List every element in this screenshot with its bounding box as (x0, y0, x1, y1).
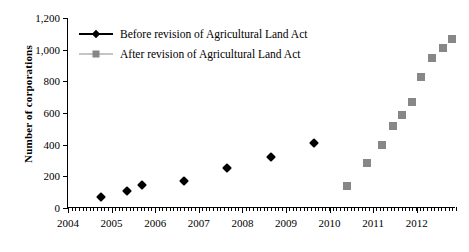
x-axis-minor-tick (93, 207, 94, 211)
x-axis-minor-tick (391, 207, 392, 211)
x-axis-minor-tick (412, 207, 413, 211)
x-axis-minor-tick (191, 207, 192, 211)
legend-marker (93, 50, 100, 57)
x-axis-minor-tick (104, 207, 105, 211)
data-point (378, 141, 386, 149)
x-axis-minor-tick (282, 207, 283, 211)
x-axis-minor-tick (358, 207, 359, 211)
x-axis-minor-tick (238, 207, 239, 211)
x-axis-minor-tick (318, 207, 319, 211)
data-point (343, 182, 351, 190)
data-point (363, 159, 371, 167)
x-axis-minor-tick (376, 207, 377, 211)
x-axis-minor-tick (130, 207, 131, 211)
x-axis-tick-label: 2011 (362, 217, 384, 229)
x-axis-tick-label: 2007 (188, 217, 210, 229)
x-axis-minor-tick (137, 207, 138, 211)
x-axis-tick-label: 2005 (101, 217, 123, 229)
x-axis-minor-tick (423, 207, 424, 211)
x-axis-minor-tick (289, 207, 290, 211)
x-axis-minor-tick (115, 207, 116, 211)
x-axis-minor-tick (347, 207, 348, 211)
data-point (439, 44, 447, 52)
x-axis-minor-tick (166, 207, 167, 211)
x-axis-minor-tick (151, 207, 152, 211)
x-axis-minor-tick (228, 207, 229, 211)
x-axis-minor-tick (344, 207, 345, 211)
x-axis-minor-tick (296, 207, 297, 211)
x-axis-minor-tick (184, 207, 185, 211)
legend-item: Before revision of Agricultural Land Act (79, 26, 307, 41)
x-axis-major-tick (242, 207, 243, 213)
x-axis-minor-tick (83, 207, 84, 211)
x-axis-minor-tick (188, 207, 189, 211)
x-axis-tick-label: 2006 (144, 217, 166, 229)
x-axis-minor-tick (304, 207, 305, 211)
x-axis-minor-tick (351, 207, 352, 211)
x-axis-minor-tick (434, 207, 435, 211)
x-axis-minor-tick (180, 207, 181, 211)
x-axis-minor-tick (75, 207, 76, 211)
y-axis-tick (63, 113, 68, 114)
legend-label: Before revision of Agricultural Land Act (120, 28, 307, 40)
x-axis-minor-tick (122, 207, 123, 211)
x-axis-minor-tick (340, 207, 341, 211)
y-axis-tick-label: 200 (44, 170, 61, 182)
y-axis-tick (63, 18, 68, 19)
x-axis-minor-tick (278, 207, 279, 211)
x-axis-minor-tick (144, 207, 145, 211)
x-axis-minor-tick (101, 207, 102, 211)
legend-item: After revision of Agricultural Land Act (79, 46, 307, 61)
y-axis-tick-label: 0 (55, 202, 61, 214)
x-axis-minor-tick (398, 207, 399, 211)
x-axis-minor-tick (362, 207, 363, 211)
y-axis-tick-label: 400 (44, 139, 61, 151)
legend-marker (92, 29, 100, 37)
x-axis-major-tick (68, 207, 69, 213)
x-axis-minor-tick (380, 207, 381, 211)
x-axis-major-tick (330, 207, 331, 213)
x-axis-minor-tick (97, 207, 98, 211)
x-axis-minor-tick (325, 207, 326, 211)
y-axis-title: Number of corporations (22, 14, 34, 194)
x-axis-minor-tick (231, 207, 232, 211)
x-axis-minor-tick (311, 207, 312, 211)
y-axis-tick (63, 176, 68, 177)
data-point (428, 54, 436, 62)
data-point (179, 176, 189, 186)
x-axis-minor-tick (445, 207, 446, 211)
x-axis-minor-tick (267, 207, 268, 211)
x-axis-minor-tick (431, 207, 432, 211)
data-point (266, 152, 276, 162)
x-axis-minor-tick (213, 207, 214, 211)
x-axis-minor-tick (79, 207, 80, 211)
x-axis-minor-tick (383, 207, 384, 211)
x-axis-tick-label: 2012 (406, 217, 428, 229)
chart-legend: Before revision of Agricultural Land Act… (79, 26, 307, 61)
x-axis-minor-tick (170, 207, 171, 211)
x-axis-minor-tick (209, 207, 210, 211)
x-axis-minor-tick (195, 207, 196, 211)
x-axis-minor-tick (202, 207, 203, 211)
x-axis-minor-tick (206, 207, 207, 211)
x-axis-minor-tick (394, 207, 395, 211)
x-axis-minor-tick (246, 207, 247, 211)
y-axis-tick-label: 1,200 (35, 12, 60, 24)
x-axis-minor-tick (420, 207, 421, 211)
x-axis-minor-tick (427, 207, 428, 211)
x-axis-minor-tick (333, 207, 334, 211)
x-axis-major-tick (155, 207, 156, 213)
x-axis-minor-tick (452, 207, 453, 211)
data-point (389, 122, 397, 130)
x-axis-minor-tick (235, 207, 236, 211)
x-axis-minor-tick (449, 207, 450, 211)
x-axis-minor-tick (438, 207, 439, 211)
y-axis-tick-label: 800 (44, 75, 61, 87)
legend-marker-square-icon (79, 48, 113, 60)
data-point (222, 163, 232, 173)
x-axis-minor-tick (307, 207, 308, 211)
x-axis-major-tick (417, 207, 418, 213)
x-axis-major-tick (112, 207, 113, 213)
chart-figure: Number of corporations 02004006008001,00… (0, 0, 469, 252)
x-axis-minor-tick (336, 207, 337, 211)
